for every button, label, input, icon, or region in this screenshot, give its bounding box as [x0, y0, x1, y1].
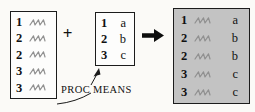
row-key: 1	[101, 17, 110, 30]
plus-operator: +	[59, 24, 76, 44]
table-row: 3 c	[174, 68, 249, 81]
data-squiggle-icon	[194, 52, 211, 61]
row-value: a	[232, 14, 238, 27]
data-squiggle-icon	[194, 16, 211, 25]
table-row: 2 b	[96, 33, 134, 46]
table-row: 1	[11, 16, 56, 29]
row-key: 2	[16, 49, 25, 62]
table-row: 1 a	[174, 14, 249, 27]
row-key: 3	[101, 49, 110, 62]
table-row: 3 c	[96, 49, 134, 62]
row-key: 3	[181, 68, 190, 81]
row-key: 1	[16, 16, 25, 29]
proc-means-merge-diagram: 1 2 2 3 3 + 1 a 2 b 3	[0, 0, 255, 112]
row-value: b	[120, 33, 126, 46]
data-squiggle-icon	[29, 18, 46, 27]
data-squiggle-icon	[194, 70, 211, 79]
row-key: 2	[101, 33, 110, 46]
table-row: 2 b	[174, 50, 249, 63]
row-key: 2	[16, 32, 25, 45]
row-key: 3	[16, 82, 25, 95]
table-row: 2	[11, 32, 56, 45]
data-squiggle-icon	[29, 50, 46, 59]
table-row: 3 c	[174, 86, 249, 99]
row-value: c	[232, 68, 238, 81]
table-row: 1 a	[96, 17, 134, 30]
row-value: c	[232, 86, 238, 99]
data-squiggle-icon	[29, 67, 46, 76]
row-key: 3	[181, 86, 190, 99]
row-key: 2	[181, 50, 190, 63]
row-value: a	[120, 17, 126, 30]
data-squiggle-icon	[29, 34, 46, 43]
summary-table: 1 a 2 b 3 c	[95, 12, 135, 66]
right-arrow-icon	[142, 28, 165, 43]
table-row: 2	[11, 49, 56, 62]
row-value: c	[120, 49, 126, 62]
table-row: 2 b	[174, 32, 249, 45]
table-row: 3	[11, 65, 56, 78]
data-squiggle-icon	[194, 88, 211, 97]
data-squiggle-icon	[194, 34, 211, 43]
data-squiggle-icon	[29, 83, 46, 92]
table-row: 3	[11, 82, 56, 95]
row-key: 2	[181, 32, 190, 45]
merged-result-table: 1 a 2 b 2 b 3 c 3 c	[173, 8, 250, 104]
row-key: 1	[181, 14, 190, 27]
row-value: b	[232, 32, 238, 45]
row-key: 3	[16, 65, 25, 78]
row-value: b	[232, 50, 238, 63]
detail-data-table: 1 2 2 3 3	[10, 11, 57, 99]
proc-means-label: PROC MEANS	[61, 84, 132, 95]
